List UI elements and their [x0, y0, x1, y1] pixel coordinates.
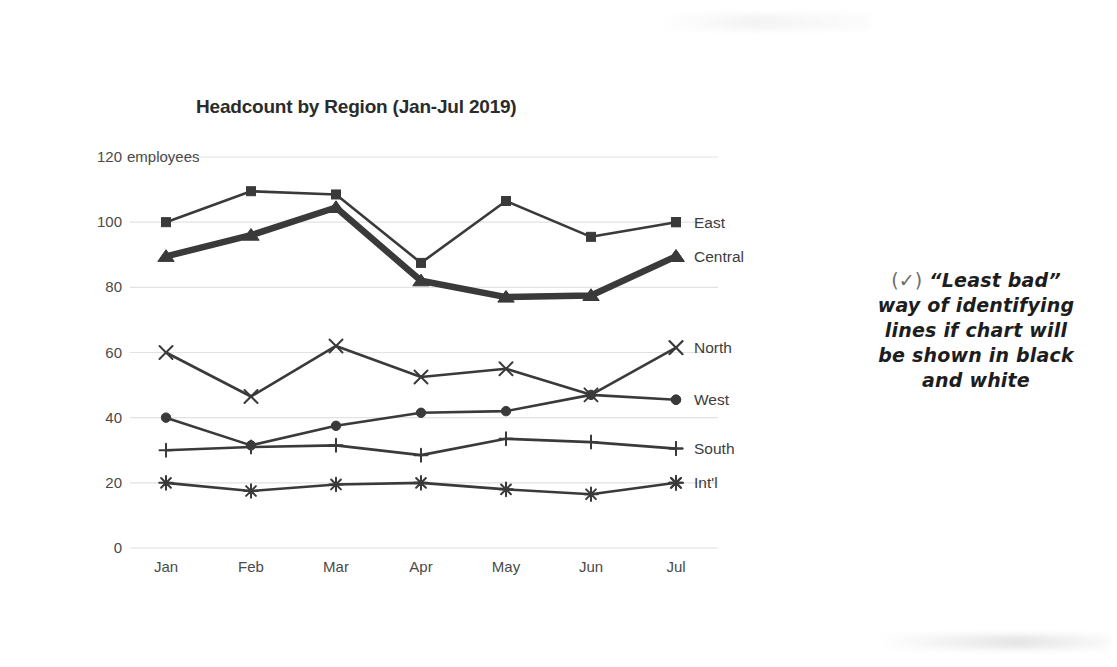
data-point-star — [244, 484, 258, 498]
chart-panel: Headcount by Region (Jan-Jul 2019) 02040… — [0, 0, 800, 667]
data-point-plus — [585, 436, 598, 449]
data-point-plus — [330, 439, 343, 452]
line-chart-plot: 020406080100120employees JanFebMarAprMay… — [0, 0, 800, 667]
data-point-cross — [245, 390, 258, 403]
data-point-circle — [586, 390, 595, 399]
legend-label: East — [694, 214, 726, 231]
annotation-line-3: lines if chart will — [885, 319, 1067, 341]
data-point-star — [584, 487, 598, 501]
y-tick-label: 60 — [105, 344, 122, 361]
data-point-star — [669, 476, 683, 490]
data-point-star — [414, 476, 428, 490]
data-point-circle — [416, 408, 425, 417]
legend-label: North — [694, 339, 732, 356]
legend-label: Int'l — [694, 474, 718, 491]
x-tick-label: Jun — [579, 558, 603, 575]
data-point-plus — [500, 432, 513, 445]
y-tick-label: 40 — [105, 409, 122, 426]
x-tick-label: Jan — [154, 558, 178, 575]
data-point-plus — [245, 440, 258, 453]
data-point-square — [672, 218, 681, 227]
annotation-line-4: be shown in black — [878, 344, 1074, 366]
data-point-square — [332, 190, 341, 199]
data-point-square — [417, 258, 426, 267]
data-point-circle — [331, 421, 340, 430]
scan-shadow-bottom — [880, 635, 1110, 649]
data-point-circle — [671, 395, 680, 404]
data-point-plus — [160, 444, 173, 457]
legend-label: Central — [694, 248, 744, 265]
annotation-line-5: and white — [922, 369, 1030, 391]
legend-label: South — [694, 440, 735, 457]
annotation-line-1: “Least bad” — [929, 269, 1061, 291]
legend-label: West — [694, 391, 730, 408]
y-tick-label: 0 — [114, 539, 122, 556]
data-point-square — [247, 187, 256, 196]
data-point-star — [329, 478, 343, 492]
data-point-plus — [415, 449, 428, 462]
x-tick-label: Feb — [238, 558, 264, 575]
checkmark-icon: (✓) — [891, 269, 922, 291]
x-tick-label: Apr — [409, 558, 432, 575]
x-tick-label: May — [492, 558, 521, 575]
data-point-star — [499, 483, 513, 497]
data-point-square — [162, 218, 171, 227]
y-tick-label: 80 — [105, 278, 122, 295]
series-line — [166, 346, 676, 397]
annotation-line-2: way of identifying — [878, 294, 1075, 316]
data-point-plus — [670, 442, 683, 455]
y-tick-label: 20 — [105, 474, 122, 491]
data-point-circle — [161, 413, 170, 422]
y-tick-label: 100 — [97, 213, 122, 230]
x-axis-tick-labels: JanFebMarAprMayJunJul — [154, 558, 686, 575]
series-line — [166, 395, 676, 446]
x-tick-label: Mar — [323, 558, 349, 575]
y-axis-unit-label: employees — [127, 148, 200, 165]
handwritten-annotation: (✓) “Least bad” way of identifying lines… — [845, 268, 1107, 393]
series-line — [166, 191, 676, 263]
data-point-cross — [330, 339, 343, 352]
data-point-square — [502, 196, 511, 205]
data-point-square — [587, 232, 596, 241]
x-tick-label: Jul — [666, 558, 685, 575]
data-point-circle — [501, 406, 510, 415]
data-point-star — [159, 476, 173, 490]
y-tick-label: 120 — [97, 148, 122, 165]
